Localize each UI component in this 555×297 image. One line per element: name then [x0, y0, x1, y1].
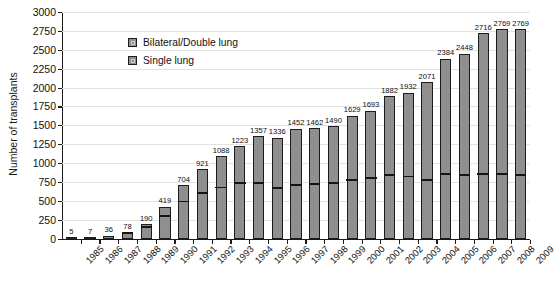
- bar-value-label: 2071: [419, 72, 436, 81]
- bar-1998: [309, 128, 320, 238]
- x-tick-mark: [99, 240, 100, 244]
- y-tick-mark: [58, 144, 62, 145]
- y-tick-label: 2500: [16, 44, 56, 56]
- x-axis-label-1996: 1996: [290, 244, 312, 266]
- y-tick-mark: [58, 220, 62, 221]
- y-tick-label: 2750: [16, 25, 56, 37]
- y-tick-mark: [58, 125, 62, 126]
- segment-divider: [346, 179, 357, 181]
- bar-2008: [496, 29, 507, 238]
- bar-value-label: 921: [196, 159, 209, 168]
- segment-divider: [159, 215, 170, 217]
- x-tick-mark: [493, 240, 494, 244]
- x-tick-mark: [324, 240, 325, 244]
- segment-divider: [141, 226, 152, 228]
- bar-value-label: 1629: [344, 105, 361, 114]
- y-tick-label: 0: [16, 233, 56, 245]
- x-axis-label-2005: 2005: [459, 244, 481, 266]
- bar-1986: [84, 237, 95, 239]
- bar-value-label: 1452: [288, 118, 305, 127]
- segment-divider: [459, 174, 470, 176]
- y-tick-mark: [58, 69, 62, 70]
- x-tick-mark: [81, 240, 82, 244]
- bar-value-label: 2716: [475, 23, 492, 32]
- segment-divider: [290, 184, 301, 186]
- y-tick-label: 2000: [16, 82, 56, 94]
- bar-value-label: 1882: [381, 86, 398, 95]
- legend-swatch-bilateral-icon: [128, 38, 137, 47]
- x-axis-label-2002: 2002: [403, 244, 425, 266]
- segment-divider: [440, 173, 451, 175]
- bar-value-label: 1490: [325, 116, 342, 125]
- x-axis-label-2008: 2008: [515, 244, 537, 266]
- x-tick-mark: [230, 240, 231, 244]
- y-tick-mark: [58, 106, 62, 107]
- x-axis-label-2009: 2009: [534, 244, 555, 266]
- bar-2000: [347, 116, 358, 239]
- bar-1985: [66, 237, 77, 239]
- x-axis-label-1989: 1989: [159, 244, 181, 266]
- bar-value-label: 704: [177, 175, 190, 184]
- x-tick-mark: [399, 240, 400, 244]
- bar-1997: [290, 129, 301, 239]
- bar-value-label: 1693: [362, 100, 379, 109]
- x-tick-mark: [436, 240, 437, 244]
- bar-2009: [515, 29, 526, 238]
- y-tick-label: 1000: [16, 157, 56, 169]
- segment-divider: [122, 232, 133, 234]
- x-axis-label-1994: 1994: [253, 244, 275, 266]
- segment-divider: [272, 187, 283, 189]
- x-axis-label-1993: 1993: [234, 244, 256, 266]
- x-tick-mark: [511, 240, 512, 244]
- x-axis-label-2001: 2001: [384, 244, 406, 266]
- bar-1989: [141, 224, 152, 238]
- bar-value-label: 1336: [269, 127, 286, 136]
- bar-value-label: 1357: [250, 126, 267, 135]
- bar-value-label: 78: [123, 222, 131, 231]
- x-tick-mark: [174, 240, 175, 244]
- y-tick-label: 3000: [16, 6, 56, 18]
- x-axis-label-2003: 2003: [421, 244, 443, 266]
- y-tick-label: 1500: [16, 119, 56, 131]
- chart-legend: Bilateral/Double lung Single lung: [128, 36, 238, 72]
- bar-value-label: 1088: [213, 146, 230, 155]
- x-axis-label-1987: 1987: [122, 244, 144, 266]
- x-tick-mark: [249, 240, 250, 244]
- segment-divider: [328, 182, 339, 184]
- gridline: [62, 31, 530, 32]
- segment-divider: [178, 201, 189, 203]
- bar-1991: [178, 185, 189, 238]
- x-tick-mark: [118, 240, 119, 244]
- bar-2002: [384, 96, 395, 238]
- y-tick-mark: [58, 182, 62, 183]
- bar-1994: [234, 146, 245, 238]
- x-tick-mark: [530, 240, 531, 244]
- x-axis-label-1992: 1992: [215, 244, 237, 266]
- segment-divider: [477, 173, 488, 175]
- y-tick-mark: [58, 163, 62, 164]
- bar-2003: [403, 93, 414, 239]
- x-axis-label-1986: 1986: [103, 244, 125, 266]
- y-tick-mark: [58, 31, 62, 32]
- bar-1987: [103, 236, 114, 239]
- legend-label-bilateral: Bilateral/Double lung: [143, 37, 238, 48]
- x-axis-label-1995: 1995: [272, 244, 294, 266]
- bar-value-label: 2448: [456, 43, 473, 52]
- x-axis-label-2004: 2004: [440, 244, 462, 266]
- bar-2005: [440, 59, 451, 239]
- bar-2006: [459, 54, 470, 239]
- segment-divider: [496, 173, 507, 175]
- segment-divider: [384, 174, 395, 176]
- x-axis-label-2006: 2006: [478, 244, 500, 266]
- segment-divider: [403, 176, 414, 178]
- bar-1995: [253, 136, 264, 238]
- bar-value-label: 2769: [512, 19, 529, 28]
- y-tick-label: 750: [16, 176, 56, 188]
- bar-1999: [328, 126, 339, 239]
- segment-divider: [309, 183, 320, 185]
- bar-1990: [159, 207, 170, 239]
- x-axis-label-1997: 1997: [309, 244, 331, 266]
- x-axis-label-1999: 1999: [346, 244, 368, 266]
- bar-value-label: 7: [88, 227, 92, 236]
